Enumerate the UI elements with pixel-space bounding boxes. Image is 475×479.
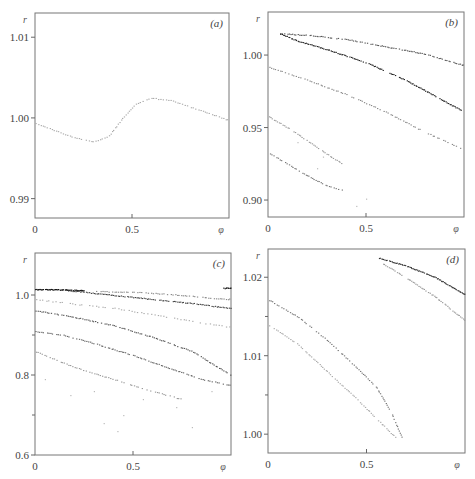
- data-point: [215, 306, 216, 307]
- data-point: [119, 351, 120, 352]
- data-point: [331, 89, 332, 90]
- data-point: [317, 362, 318, 363]
- data-point: [323, 157, 324, 158]
- data-point: [440, 58, 441, 59]
- data-point: [453, 145, 454, 146]
- data-point: [318, 148, 319, 149]
- data-point: [419, 129, 420, 130]
- data-point: [226, 287, 227, 288]
- data-point: [392, 415, 393, 416]
- data-point: [40, 311, 41, 312]
- data-point: [93, 343, 94, 344]
- data-point: [349, 40, 350, 41]
- data-point: [403, 121, 404, 122]
- data-point: [112, 131, 113, 132]
- data-point: [427, 274, 428, 275]
- data-point: [366, 103, 367, 104]
- data-point: [387, 405, 388, 406]
- data-point: [143, 101, 144, 102]
- data-point: [304, 79, 305, 80]
- data-point: [122, 352, 123, 353]
- data-point: [355, 59, 356, 60]
- data-point: [175, 345, 176, 346]
- data-point: [431, 94, 432, 95]
- data-point: [208, 305, 209, 306]
- series-band-2: [36, 299, 230, 328]
- data-point: [314, 82, 315, 83]
- data-point: [452, 105, 453, 106]
- data-point: [274, 328, 275, 329]
- data-point: [137, 292, 138, 293]
- data-point: [336, 188, 337, 189]
- data-point: [226, 299, 227, 300]
- data-point: [41, 125, 42, 126]
- series-band-5: [36, 352, 182, 400]
- data-point: [434, 136, 435, 137]
- data-point: [431, 276, 432, 277]
- data-point: [430, 293, 431, 294]
- data-point: [365, 43, 366, 44]
- data-point: [141, 358, 142, 359]
- data-point: [304, 322, 305, 323]
- data-point: [114, 325, 115, 326]
- data-point: [402, 265, 403, 266]
- data-point: [123, 296, 124, 297]
- data-point: [316, 331, 317, 332]
- data-point: [150, 299, 151, 300]
- data-point: [339, 54, 340, 55]
- data-point: [157, 293, 158, 294]
- data-point: [310, 142, 311, 143]
- data-point: [416, 86, 417, 87]
- data-point: [178, 398, 179, 399]
- data-point: [292, 313, 293, 314]
- data-point: [418, 129, 419, 130]
- data-point: [330, 342, 331, 343]
- data-point: [137, 357, 138, 358]
- data-point: [81, 339, 82, 340]
- data-point: [70, 303, 71, 304]
- data-point: [459, 315, 460, 316]
- data-point: [409, 123, 410, 124]
- data-point: [163, 293, 164, 294]
- data-point: [76, 338, 77, 339]
- data-point: [411, 267, 412, 268]
- data-point: [76, 138, 77, 139]
- data-point: [321, 182, 322, 183]
- data-point: [162, 294, 163, 295]
- data-point: [412, 83, 413, 84]
- data-point: [287, 311, 288, 312]
- data-point: [401, 437, 402, 438]
- data-point: [461, 317, 462, 318]
- data-point: [407, 50, 408, 51]
- data-point: [333, 346, 334, 347]
- data-point: [375, 107, 376, 108]
- series-left-upper: [269, 300, 403, 438]
- data-point: [76, 368, 77, 369]
- data-point: [91, 372, 92, 373]
- data-point: [284, 35, 285, 36]
- data-point: [124, 116, 125, 117]
- x-tick-label: 0.5: [360, 458, 374, 470]
- data-point: [55, 301, 56, 302]
- data-point: [89, 372, 90, 373]
- data-point: [322, 183, 323, 184]
- series-band-4: [35, 331, 230, 386]
- data-point: [218, 298, 219, 299]
- data-point: [366, 376, 367, 377]
- data-point: [345, 93, 346, 94]
- x-axis-label: φ: [453, 223, 459, 234]
- data-point: [223, 118, 224, 119]
- data-point: [415, 284, 416, 285]
- data-point: [398, 429, 399, 430]
- data-point: [410, 280, 411, 281]
- data-point: [400, 433, 401, 434]
- data-point: [445, 141, 446, 142]
- data-point: [351, 97, 352, 98]
- data-point: [91, 293, 92, 294]
- data-point: [395, 48, 396, 49]
- data-point: [109, 292, 110, 293]
- data-point: [292, 167, 293, 168]
- data-point: [347, 56, 348, 57]
- data-point: [321, 36, 322, 37]
- data-point: [41, 332, 42, 333]
